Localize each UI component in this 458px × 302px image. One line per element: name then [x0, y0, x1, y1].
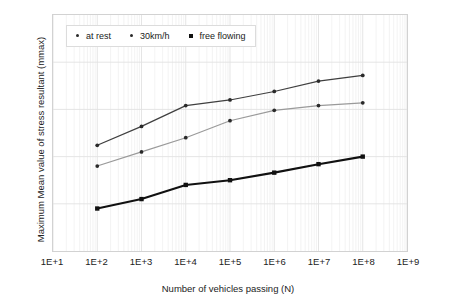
- x-tick-label: 1E+7: [297, 256, 341, 267]
- legend-entry[interactable]: at rest: [76, 31, 111, 41]
- x-axis-title: Number of vehicles passing (N): [48, 283, 408, 294]
- x-tick-label: 1E+4: [164, 256, 208, 267]
- x-tick-label: 1E+2: [75, 256, 119, 267]
- legend-entry[interactable]: 30km/h: [130, 31, 170, 41]
- data-point: [95, 206, 99, 210]
- data-point: [95, 164, 99, 168]
- data-point: [139, 197, 143, 201]
- x-tick-label: 1E+9: [386, 256, 430, 267]
- x-tick-label: 1E+1: [30, 256, 74, 267]
- data-point: [361, 154, 365, 158]
- legend-label: at rest: [86, 31, 111, 41]
- data-point: [228, 178, 232, 182]
- legend-marker-icon: [76, 34, 79, 37]
- legend-label: free flowing: [200, 31, 246, 41]
- data-point: [316, 162, 320, 166]
- data-point: [184, 183, 188, 187]
- legend-label: 30km/h: [140, 31, 170, 41]
- data-point: [272, 108, 276, 112]
- data-point: [184, 104, 188, 108]
- legend-entry[interactable]: free flowing: [189, 31, 246, 41]
- data-point: [317, 79, 321, 83]
- x-tick-label: 1E+5: [208, 256, 252, 267]
- data-point: [228, 98, 232, 102]
- chart-legend: at rest30km/hfree flowing: [66, 25, 256, 47]
- data-point: [272, 90, 276, 94]
- x-tick-label: 1E+6: [253, 256, 297, 267]
- x-tick-label: 1E+8: [342, 256, 386, 267]
- data-point: [140, 125, 144, 129]
- legend-marker-icon: [130, 34, 133, 37]
- data-point: [317, 104, 321, 108]
- x-tick-label: 1E+3: [119, 256, 163, 267]
- data-point: [361, 74, 365, 78]
- legend-marker-icon: [189, 34, 193, 38]
- chart-figure: Maximum Mean value of stress resultant (…: [0, 0, 458, 302]
- data-point: [184, 136, 188, 140]
- data-point: [95, 143, 99, 147]
- x-axis-tick-labels: 1E+11E+21E+31E+41E+51E+61E+71E+81E+9: [0, 256, 458, 272]
- plot-area: [52, 14, 408, 252]
- plot-canvas: [53, 15, 407, 251]
- data-point: [140, 150, 144, 154]
- data-point: [228, 119, 232, 123]
- data-point: [361, 101, 365, 105]
- data-point: [272, 170, 276, 174]
